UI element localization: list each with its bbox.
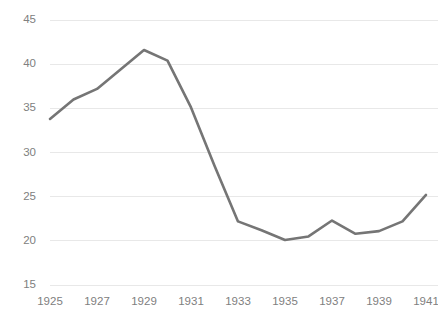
x-axis-tick-label: 1927: [84, 295, 110, 307]
x-axis-tick-label: 1941: [413, 295, 438, 307]
line-chart: 45403530252015 1925192719291931193319351…: [0, 0, 438, 320]
x-axis-tick-label: 1937: [319, 295, 345, 307]
x-axis-tick-label: 1935: [272, 295, 298, 307]
y-axis-tick-label: 30: [23, 146, 36, 158]
x-axis-tick-label: 1925: [37, 295, 63, 307]
y-axis-tick-label: 25: [23, 190, 36, 202]
gridlines: [50, 20, 438, 285]
x-axis-tick-labels: 192519271929193119331935193719391941: [37, 295, 438, 307]
y-axis-tick-label: 45: [23, 13, 36, 25]
x-axis-tick-label: 1939: [366, 295, 392, 307]
y-axis-tick-label: 20: [23, 234, 36, 246]
chart-canvas: 45403530252015 1925192719291931193319351…: [0, 0, 438, 320]
y-axis-tick-label: 35: [23, 101, 36, 113]
y-axis-tick-labels: 45403530252015: [23, 13, 36, 290]
y-axis-tick-label: 15: [23, 278, 36, 290]
y-axis-tick-label: 40: [23, 57, 36, 69]
data-series: [50, 50, 426, 240]
x-axis-tick-label: 1929: [131, 295, 157, 307]
x-axis-tick-label: 1931: [178, 295, 204, 307]
x-axis-tick-label: 1933: [225, 295, 251, 307]
series-line: [50, 50, 426, 240]
